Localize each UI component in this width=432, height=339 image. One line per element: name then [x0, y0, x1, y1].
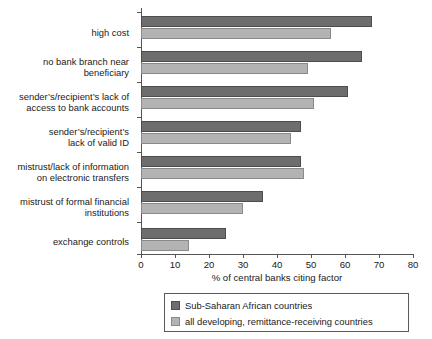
- bar-series1-cat2: [141, 98, 314, 109]
- y-tick: [137, 12, 141, 13]
- bar-series0-cat2: [141, 86, 348, 97]
- x-tick-label: 10: [170, 259, 181, 270]
- y-tick: [137, 117, 141, 118]
- bar-series1-cat0: [141, 28, 331, 39]
- x-tick: [141, 254, 142, 258]
- x-tick-label: 80: [408, 259, 419, 270]
- x-axis-title: % of central banks citing factor: [141, 272, 413, 283]
- y-tick: [137, 47, 141, 48]
- category-label: sender’s/recipient’s lack of valid ID: [1, 126, 129, 148]
- bar-series1-cat4: [141, 168, 304, 179]
- x-tick: [379, 254, 380, 258]
- x-tick: [243, 254, 244, 258]
- x-tick-label: 0: [138, 259, 143, 270]
- x-tick: [277, 254, 278, 258]
- y-tick: [137, 82, 141, 83]
- category-label: exchange controls: [1, 236, 129, 247]
- legend-swatch-icon: [171, 301, 180, 310]
- x-tick-label: 40: [272, 259, 283, 270]
- x-tick-label: 30: [238, 259, 249, 270]
- x-tick-label: 20: [204, 259, 215, 270]
- x-tick: [413, 254, 414, 258]
- x-tick: [311, 254, 312, 258]
- bar-series0-cat4: [141, 156, 301, 167]
- category-label: high cost: [1, 27, 129, 38]
- bar-series0-cat6: [141, 228, 226, 239]
- bar-series1-cat3: [141, 133, 291, 144]
- legend-label: all developing, remittance-receiving cou…: [185, 316, 373, 327]
- x-tick: [345, 254, 346, 258]
- x-tick: [175, 254, 176, 258]
- bar-series1-cat1: [141, 63, 308, 74]
- y-tick: [137, 187, 141, 188]
- bars-container: [141, 8, 413, 258]
- legend-label: Sub-Saharan African countries: [185, 300, 312, 311]
- category-label: sender’s/recipient’s lack of access to b…: [1, 91, 129, 113]
- x-tick-label: 60: [340, 259, 351, 270]
- legend-swatch-icon: [171, 317, 180, 326]
- category-label: mistrust of formal financial institution…: [1, 196, 129, 218]
- category-label: no bank branch near beneficiary: [1, 56, 129, 78]
- legend: Sub-Saharan African countries all develo…: [164, 293, 409, 332]
- x-tick-label: 70: [374, 259, 385, 270]
- bar-series0-cat1: [141, 51, 362, 62]
- bar-series1-cat6: [141, 240, 189, 251]
- category-label: mistrust/lack of information on electron…: [1, 161, 129, 183]
- category-axis-labels: high cost no bank branch near beneficiar…: [0, 8, 134, 258]
- legend-entry-sub-saharan: Sub-Saharan African countries: [171, 299, 312, 312]
- plot-area: high cost no bank branch near beneficiar…: [0, 8, 432, 258]
- bar-chart: high cost no bank branch near beneficiar…: [0, 0, 432, 339]
- y-tick: [137, 152, 141, 153]
- x-tick-label: 50: [306, 259, 317, 270]
- y-tick: [137, 222, 141, 223]
- bar-series0-cat3: [141, 121, 301, 132]
- bar-series1-cat5: [141, 203, 243, 214]
- bar-series0-cat5: [141, 191, 263, 202]
- legend-entry-all-developing: all developing, remittance-receiving cou…: [171, 315, 373, 328]
- x-tick: [209, 254, 210, 258]
- bar-series0-cat0: [141, 16, 372, 27]
